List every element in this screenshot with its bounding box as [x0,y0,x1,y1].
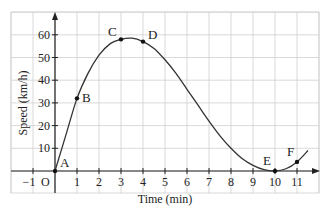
svg-text:40: 40 [38,73,50,87]
origin-label: O [41,175,50,189]
svg-text:6: 6 [184,175,190,189]
svg-text:D: D [148,27,157,42]
svg-text:−1: −1 [23,175,36,189]
svg-text:9: 9 [250,175,256,189]
svg-text:20: 20 [38,119,50,133]
svg-text:B: B [82,90,91,105]
labelled-points: ABCDEF [53,24,299,173]
svg-text:A: A [60,155,70,170]
svg-text:F: F [287,144,294,159]
svg-text:11: 11 [291,175,303,189]
x-axis-label: Time (min) [138,192,193,206]
svg-text:10: 10 [269,175,281,189]
svg-text:E: E [263,153,271,168]
svg-text:50: 50 [38,51,50,65]
svg-text:2: 2 [96,175,102,189]
svg-text:10: 10 [38,141,50,155]
y-axis-label: Speed (km/h) [16,71,30,136]
svg-text:8: 8 [228,175,234,189]
svg-text:3: 3 [118,175,124,189]
svg-text:5: 5 [162,175,168,189]
svg-text:30: 30 [38,96,50,110]
speed-time-chart: −11234567891011102030405060 ABCDEF Time … [0,0,326,210]
speed-curve [55,38,308,171]
svg-text:1: 1 [74,175,80,189]
svg-text:4: 4 [140,175,146,189]
svg-text:C: C [108,24,117,39]
svg-text:7: 7 [206,175,212,189]
svg-text:60: 60 [38,28,50,42]
